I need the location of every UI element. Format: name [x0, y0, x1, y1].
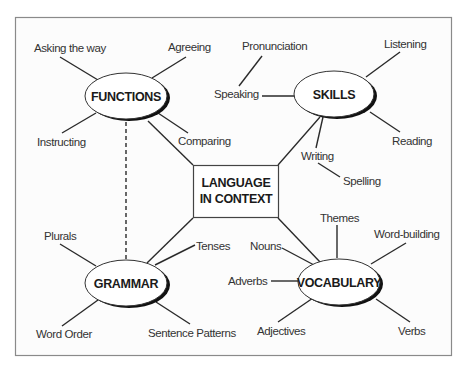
branch-label: Listening: [384, 38, 426, 50]
branch-label: Instructing: [37, 136, 86, 148]
branch-label: Adjectives: [257, 325, 306, 337]
branch-label: Plurals: [44, 230, 77, 242]
mind-map: FUNCTIONS SKILLS GRAMMAR VOCABULARY LANG…: [0, 0, 467, 370]
branch-label: Comparing: [178, 135, 231, 147]
center-label-line2: IN CONTEXT: [200, 192, 273, 206]
center-box: LANGUAGE IN CONTEXT: [194, 166, 279, 218]
branch-label: Speaking: [214, 88, 259, 100]
hub-label-skills: SKILLS: [313, 88, 356, 102]
branch-label: Sentence Patterns: [148, 327, 236, 339]
branch-label: Agreeing: [168, 41, 211, 53]
branch-label: Tenses: [196, 240, 231, 252]
branch-label: Writing: [301, 150, 334, 162]
branch-label: Themes: [320, 212, 360, 224]
branch-label: Spelling: [343, 175, 381, 187]
branch-label: Word Order: [36, 328, 92, 340]
hub-label-functions: FUNCTIONS: [91, 90, 161, 104]
branch-label: Reading: [392, 135, 432, 147]
hub-label-vocabulary: VOCABULARY: [297, 276, 383, 290]
branch-label: Asking the way: [34, 42, 106, 54]
branch-label: Verbs: [398, 325, 426, 337]
branch-label: Adverbs: [228, 275, 268, 287]
branch-label: Pronunciation: [242, 40, 307, 52]
branch-label: Nouns: [250, 240, 282, 252]
center-label-line1: LANGUAGE: [201, 176, 270, 190]
hub-label-grammar: GRAMMAR: [94, 277, 159, 291]
branch-label: Word-building: [374, 228, 440, 240]
